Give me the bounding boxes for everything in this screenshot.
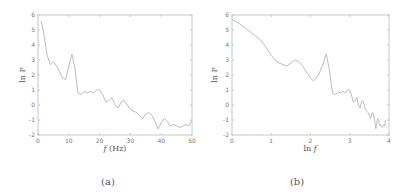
panel-b-x-tick-label: 0 — [230, 137, 234, 144]
panel-b-spectrum-line — [232, 20, 386, 130]
panel-b-x-tick-label: 2 — [309, 137, 313, 144]
panel-a-spectrum-line — [41, 21, 192, 129]
panel-a-chart: -2-1012345601020304050 f (Hz) ln P (a) — [18, 11, 196, 187]
panel-b-y-axis-label: ln P — [210, 67, 219, 83]
panel-b-y-tick-label: -1 — [223, 116, 229, 123]
panel-b-y-tick-label: 1 — [225, 86, 229, 93]
panel-a-x-tick-label: 20 — [96, 137, 104, 144]
panel-b-plot-frame — [232, 15, 389, 135]
panel-a-y-tick-label: 4 — [31, 41, 35, 48]
panel-a-y-tick-label: 0 — [31, 101, 35, 108]
panel-b-x-tick-label: 4 — [387, 137, 391, 144]
panel-a-y-tick-label: -2 — [29, 131, 35, 138]
panel-a-y-tick-label: 5 — [31, 26, 35, 33]
panel-a-y-tick-label: -1 — [29, 116, 35, 123]
panel-a-x-axis-label: f (Hz) — [103, 144, 127, 153]
panel-a-ticks: -2-1012345601020304050 — [29, 11, 196, 144]
panel-a-y-axis-label: ln P — [18, 67, 27, 83]
panel-a-x-tick-label: 0 — [36, 137, 40, 144]
panel-a-x-tick-label: 10 — [65, 137, 73, 144]
panel-a-y-tick-label: 2 — [31, 71, 35, 78]
panel-b-x-axis-label: ln f — [303, 144, 318, 153]
panel-b-x-tick-label: 3 — [348, 137, 352, 144]
panel-a-x-tick-label: 40 — [157, 137, 165, 144]
figure: -2-1012345601020304050 f (Hz) ln P (a) -… — [0, 0, 410, 196]
panel-b-y-tick-label: 6 — [225, 11, 229, 18]
panel-a-x-tick-label: 50 — [188, 137, 196, 144]
panel-b-chart: -2-1012345601234 ln f ln P (b) — [210, 11, 391, 187]
panel-a-y-tick-label: 6 — [31, 11, 35, 18]
panel-b-y-tick-label: 0 — [225, 101, 229, 108]
panel-b-caption: (b) — [290, 176, 304, 187]
panel-a-caption: (a) — [101, 176, 115, 187]
panel-b-y-tick-label: 5 — [225, 26, 229, 33]
panel-a-y-tick-label: 1 — [31, 86, 35, 93]
panel-b-y-tick-label: -2 — [223, 131, 229, 138]
panel-b-y-tick-label: 4 — [225, 41, 229, 48]
panel-a-y-tick-label: 3 — [31, 56, 35, 63]
panel-a-x-tick-label: 30 — [127, 137, 135, 144]
panel-b-y-tick-label: 3 — [225, 56, 229, 63]
panel-b-x-tick-label: 1 — [269, 137, 273, 144]
panel-b-y-tick-label: 2 — [225, 71, 229, 78]
